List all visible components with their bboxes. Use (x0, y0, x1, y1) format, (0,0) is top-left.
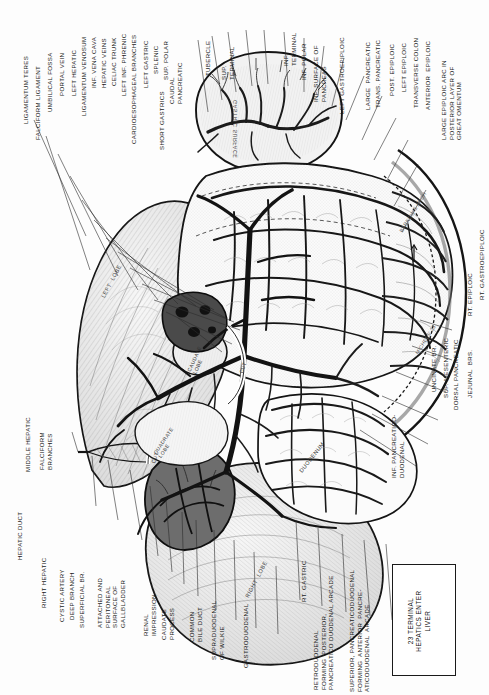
label-left-gastroepiploic: LEFT GASTROEPIPLOIC (338, 37, 346, 114)
label-left-gastric: LEFT GASTRIC (142, 40, 150, 88)
label-sup-mesenteric: SUP. MESENTERIC (442, 338, 450, 398)
anatomical-plate: LIGAMENTUM TERES FALCIFORM LIGAMENT MIDD… (0, 0, 489, 695)
label-falciform-ligament: FALCIFORM LIGAMENT (34, 66, 42, 140)
label-caudate-process: CAUDATE PROCESS (160, 608, 175, 640)
label-rt-gastric: RT. GASTRIC (300, 560, 308, 602)
label-left-hepatic: LEFT HEPATIC (70, 50, 78, 96)
label-hepatic-duct: HEPATIC DUCT (16, 512, 24, 560)
label-gastric-surface: GASTRIC SURFACE (232, 100, 240, 158)
label-cardioesophageal: CARDIOESOPHAGEAL BRANCHES (130, 35, 138, 144)
label-supraduodenal-wilkie: SUPRADUODENAL OF WILKIE (210, 601, 225, 660)
label-trans-pancreatic: TRANS. PANCREATIC (374, 40, 382, 108)
label-deep-branch: DEEP BRANCH (68, 572, 76, 620)
label-falciform-branches: FALCIFORM BRANCHES (38, 432, 53, 470)
label-large-pancreatic: LARGE PANCREATIC (364, 42, 372, 110)
label-transverse-colon: TRANSVERSE COLON (412, 38, 420, 108)
label-rt-epiploic: RT. EPIPLOIC (466, 273, 474, 316)
label-common-bile-duct: COMMON BILE DUCT (188, 607, 203, 642)
label-celiac-trunk: CELIAC TRUNK (110, 37, 118, 86)
label-cystic-artery: CYSTIC ARTERY (58, 569, 66, 622)
label-caudal-pancreatic: CAUDAL PANCREATIC (168, 62, 183, 104)
label-post-epiploic: POST. EPIPLOIC (388, 44, 396, 96)
label-dorsal-pancreatic: DORSAL PANCREATIC (452, 339, 460, 410)
label-uncinate-br: UNCINATE BR. (430, 345, 438, 392)
label-large-epiploic-arc: LARGE EPIPLOIC ARC IN POSTERIOR LAYER OF… (440, 60, 463, 140)
label-superficial-br: SUPERFICIAL BR. (78, 571, 86, 628)
label-renal-impression: RENAL IMPRESSION (142, 594, 157, 636)
label-hepatic-veins: HEPATIC VEINS (100, 38, 108, 88)
label-tubercle: TUBERCLE (204, 41, 212, 76)
label-ligamentum-teres: LIGAMENTUM TERES (22, 56, 30, 124)
label-gastroduodenal: GASTRODUODENAL (242, 604, 250, 669)
terminal-hepatics-caption-box: 23 TERMINAL HEPATICS ENTER LIVER (392, 564, 456, 676)
label-inf-pancreatico-duodenal: INF. PANCREATICO- DUODENAL (390, 414, 405, 478)
label-left-epiploic: LEFT EPIPLOIC (400, 43, 408, 92)
label-sup-terminal: SUP. TERMINAL (220, 46, 235, 80)
label-right-hepatic: RIGHT HEPATIC (40, 557, 48, 608)
label-splenic: SPLENIC (152, 45, 160, 74)
label-jejunal-brs: JEJUNAL BRS. (466, 350, 474, 398)
label-inf-polar: INF. POLAR (300, 43, 308, 80)
label-superior-pancreaticoduodenal: SUPERIOR, PANCREATICODUODENAL FORMING AN… (348, 570, 371, 692)
label-short-gastrics: SHORT GASTRICS (158, 91, 166, 150)
label-retroduodenal: RETRODUODENAL FORMING POSTERIOR, PANCREA… (312, 575, 335, 690)
label-umbilical-fossa: UMBILICAL FOSSA (46, 52, 54, 112)
label-ligamentum-venosum: LIGAMENTUM VENOSUM (80, 37, 88, 116)
label-left-inf-phrenic: LEFT INF. PHRENIC (120, 34, 128, 96)
terminal-hepatics-caption-text: 23 TERMINAL HEPATICS ENTER LIVER (407, 573, 432, 669)
label-rt-gastroepiploic: RT. GASTROEPIPLOIC (478, 229, 486, 300)
label-inf-surface-pancreas: INF. SURFACE OF PANCREAS (312, 45, 327, 102)
label-portal-vein: PORTAL VEIN (58, 53, 66, 96)
label-attached-peritoneal: ATTACHED AND PERITONEAL SURFACE OF GALLB… (96, 578, 126, 628)
label-inf-terminal: INF. TERMINAL (282, 32, 297, 66)
label-inf-vena-cava: INF. VENA CAVA (90, 37, 98, 88)
label-anterior-epiploic: ANTERIOR EPIPLOIC (424, 41, 432, 110)
label-middle-hepatic: MIDDLE HEPATIC (24, 417, 32, 472)
